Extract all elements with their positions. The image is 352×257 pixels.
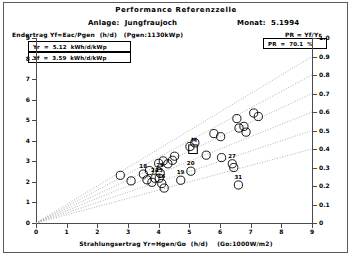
data-point-label: 29 (156, 162, 164, 168)
data-point-marker (177, 176, 185, 184)
data-point-marker (240, 122, 248, 130)
pr-ratio-line (36, 94, 312, 224)
plot-canvas (0, 0, 352, 257)
data-point-label: 20 (187, 160, 195, 166)
data-point-label: 16 (158, 173, 166, 179)
monthly-mean-label: M (191, 136, 197, 143)
data-point-marker (233, 114, 241, 122)
pr-ratio-line (36, 57, 312, 224)
screenshot-root: Performance Referenzzelle Anlage: Jungfr… (0, 0, 352, 257)
data-point-marker (242, 128, 250, 136)
data-point-label: 31 (234, 174, 242, 180)
data-point-marker (127, 177, 135, 185)
pr-ratio-line (36, 131, 312, 224)
data-point-marker (187, 167, 195, 175)
x-axis-title: Strahlungsertrag Yr=Hgen/Go (h/d) (Go:10… (0, 240, 352, 247)
data-point-label: 27 (228, 153, 236, 159)
data-point-label: 19 (177, 169, 185, 175)
data-point-marker (202, 151, 210, 159)
data-point-marker (116, 171, 124, 179)
data-point-label: 18 (139, 163, 147, 169)
data-point-marker (234, 181, 242, 189)
data-point-marker (143, 176, 151, 184)
pr-ratio-line (36, 112, 312, 223)
pr-ratio-line (36, 75, 312, 223)
